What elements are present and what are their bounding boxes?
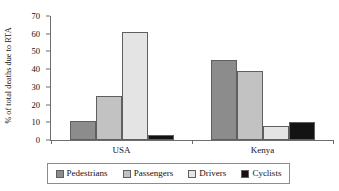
plot-area: 010203040506070 USAKenya (16, 12, 334, 144)
legend-label: Cyclists (252, 169, 281, 178)
legend-swatch-icon (56, 170, 64, 178)
bar-group (192, 16, 333, 140)
y-tick-label: 40 (31, 65, 40, 74)
legend-label: Passengers (134, 169, 174, 178)
bar-pedestrians-kenya (211, 60, 237, 140)
y-axis-title: % of total deaths due to RTA (0, 0, 16, 150)
legend-swatch-icon (188, 170, 196, 178)
legend-swatch-icon (123, 170, 131, 178)
bar-pedestrians-usa (70, 121, 96, 140)
y-tick-label: 70 (31, 12, 40, 21)
x-tick-mark (192, 140, 193, 144)
bar-group-bars (70, 16, 174, 140)
x-tick-mark (333, 140, 334, 144)
bar-passengers-usa (96, 96, 122, 140)
bar-drivers-kenya (263, 126, 289, 140)
bar-drivers-usa (122, 32, 148, 140)
x-axis-label-usa: USA (51, 145, 192, 155)
y-axis-title-text: % of total deaths due to RTA (4, 27, 13, 123)
chart-legend: PedestriansPassengersDriversCyclists (47, 163, 290, 184)
bar-chart: % of total deaths due to RTA 01020304050… (0, 0, 339, 191)
y-tick-label: 60 (31, 29, 40, 38)
legend-item-passengers[interactable]: Passengers (123, 169, 174, 178)
legend-label: Drivers (199, 169, 226, 178)
legend-item-cyclists[interactable]: Cyclists (241, 169, 281, 178)
y-tick-label: 30 (31, 83, 40, 92)
y-axis-ticks: 010203040506070 (16, 12, 46, 144)
legend-swatch-icon (241, 170, 249, 178)
x-tick-mark (51, 140, 52, 144)
bar-cyclists-usa (148, 135, 174, 140)
bars-area (51, 16, 333, 140)
bar-cyclists-kenya (289, 122, 315, 140)
y-tick-label: 50 (31, 47, 40, 56)
legend-item-drivers[interactable]: Drivers (188, 169, 226, 178)
bar-group (51, 16, 192, 140)
bar-group-bars (211, 16, 315, 140)
y-tick-label: 20 (31, 100, 40, 109)
legend-label: Pedestrians (67, 169, 108, 178)
y-tick-label: 10 (31, 118, 40, 127)
bar-passengers-kenya (237, 71, 263, 140)
y-tick-label: 0 (36, 136, 40, 145)
x-axis-label-kenya: Kenya (192, 145, 333, 155)
legend-item-pedestrians[interactable]: Pedestrians (56, 169, 108, 178)
